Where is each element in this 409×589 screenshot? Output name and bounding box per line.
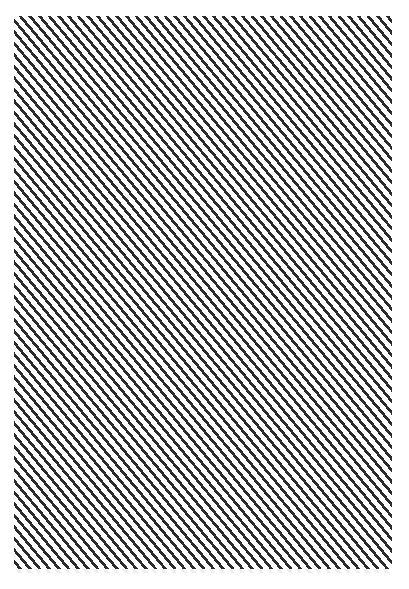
diagonal-stripe-pattern (14, 16, 392, 569)
pattern-fade-edge (14, 569, 392, 573)
